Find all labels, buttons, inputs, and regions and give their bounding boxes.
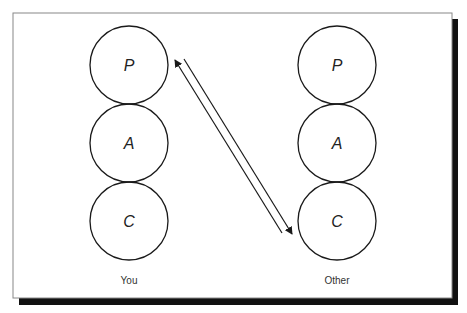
- you-child-label: C: [123, 213, 135, 230]
- ta-diagram: P A C You P A C Other: [0, 0, 467, 313]
- you-parent-label: P: [124, 57, 135, 74]
- you-column-label: You: [121, 275, 138, 286]
- other-column-label: Other: [324, 275, 350, 286]
- other-parent-label: P: [332, 57, 343, 74]
- other-adult-label: A: [331, 135, 343, 152]
- frame: [13, 13, 452, 298]
- other-child-label: C: [331, 213, 343, 230]
- you-adult-label: A: [123, 135, 135, 152]
